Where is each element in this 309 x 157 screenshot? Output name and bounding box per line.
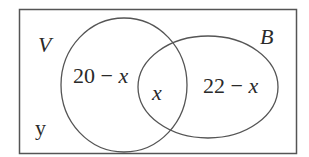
v-only-variable: x [117, 63, 128, 88]
intersection-label: x [151, 80, 162, 105]
v-only-number: 20 − [73, 63, 118, 88]
set-v-label: V [38, 32, 54, 57]
set-b-label: B [260, 24, 273, 49]
venn-diagram: V B y 20 − x x 22 − x [0, 0, 309, 157]
universe-label: y [35, 115, 46, 140]
b-only-variable: x [247, 73, 258, 98]
b-only-number: 22 − [203, 73, 248, 98]
b-only-region-label: 22 − x [203, 73, 258, 98]
v-only-region-label: 20 − x [73, 63, 128, 88]
